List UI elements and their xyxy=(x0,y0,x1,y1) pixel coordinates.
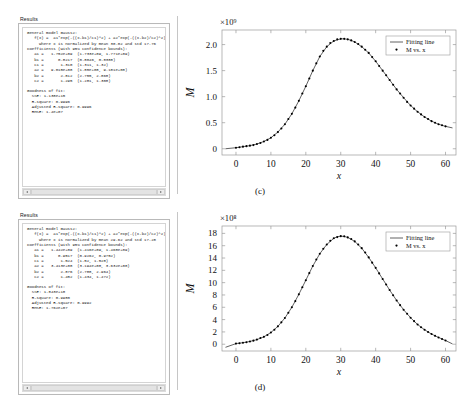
data-point xyxy=(242,146,244,148)
scroll-right-arrow-icon[interactable] xyxy=(157,189,165,195)
data-point xyxy=(389,289,391,291)
data-point xyxy=(444,125,446,127)
results-text-c: General model Gauss2: f(x) = a1*exp(-((x… xyxy=(27,31,162,116)
data-point xyxy=(350,238,352,240)
data-point xyxy=(368,52,370,54)
x-tick-label: 10 xyxy=(266,159,276,169)
data-point xyxy=(252,144,254,146)
x-tick-label: 60 xyxy=(441,355,451,365)
data-point xyxy=(333,237,335,239)
data-point xyxy=(273,134,275,136)
data-point xyxy=(434,122,436,124)
y-axis-multiplier: ×10⁹ xyxy=(220,17,236,27)
data-point xyxy=(389,79,391,81)
data-point xyxy=(245,341,247,343)
results-label-c: Results xyxy=(20,16,170,22)
data-point xyxy=(329,240,331,242)
data-point xyxy=(392,84,394,86)
data-point xyxy=(417,323,419,325)
results-panel-d-container: Results General model Gauss2: f(x) = a1*… xyxy=(18,212,170,395)
data-point xyxy=(424,116,426,118)
data-point xyxy=(437,336,439,338)
data-point xyxy=(336,236,338,238)
data-point xyxy=(294,300,296,302)
data-point xyxy=(396,88,398,90)
horizontal-scrollbar-c[interactable] xyxy=(22,188,166,196)
y-tick-label: 4 xyxy=(213,315,218,325)
data-point xyxy=(427,331,429,333)
data-point xyxy=(242,342,244,344)
data-point xyxy=(263,140,265,142)
data-point xyxy=(361,46,363,48)
data-point xyxy=(437,123,439,125)
results-panel-d: General model Gauss2: f(x) = a1*exp(-((x… xyxy=(18,219,170,395)
x-tick-label: 0 xyxy=(234,355,239,365)
x-tick-label: 20 xyxy=(301,355,311,365)
data-point xyxy=(441,338,443,340)
legend-label-fitting-line: Fitting line xyxy=(406,234,434,241)
chart-d-svg: ×10⁸0246810121416180102030405060xMFittin… xyxy=(180,208,465,386)
data-point xyxy=(249,145,251,147)
data-point xyxy=(343,235,345,237)
y-axis-label: M xyxy=(183,283,197,295)
data-point xyxy=(420,113,422,115)
data-point xyxy=(357,43,359,45)
y-tick-label: 2.0 xyxy=(206,40,218,50)
plot-c: ×10⁹00.51.01.52.00102030405060xMFitting … xyxy=(180,12,465,190)
data-point xyxy=(235,343,237,345)
data-point xyxy=(396,299,398,301)
results-line: RMSE: 1.762e+07 xyxy=(27,306,162,311)
data-point xyxy=(326,243,328,245)
x-tick-label: 10 xyxy=(266,355,276,365)
legend-label-data: M vs. x xyxy=(406,46,426,53)
data-point xyxy=(340,235,342,237)
data-point xyxy=(270,137,272,139)
fitting-line xyxy=(225,39,452,149)
y-tick-label: 10 xyxy=(208,278,218,288)
data-point xyxy=(287,312,289,314)
x-tick-label: 40 xyxy=(371,159,381,169)
data-point xyxy=(301,286,303,288)
scroll-right-arrow-icon[interactable] xyxy=(157,385,165,391)
data-point xyxy=(406,313,408,315)
results-text-d: General model Gauss2: f(x) = a1*exp(-((x… xyxy=(27,227,162,312)
scroll-left-arrow-icon[interactable] xyxy=(23,189,31,195)
y-tick-label: 0 xyxy=(213,144,218,154)
x-tick-label: 60 xyxy=(441,159,451,169)
figure-page: Results General model Gauss2: f(x) = a1*… xyxy=(0,0,465,418)
data-point xyxy=(301,92,303,94)
caption-c: (c) xyxy=(230,186,290,196)
y-tick-label: 6 xyxy=(213,302,218,312)
data-point xyxy=(294,107,296,109)
data-point xyxy=(336,38,338,40)
data-point xyxy=(354,240,356,242)
y-axis-multiplier: ×10⁸ xyxy=(220,213,236,223)
x-tick-label: 40 xyxy=(371,355,381,365)
data-point xyxy=(371,56,373,58)
legend-label-data: M vs. x xyxy=(406,242,426,249)
data-point xyxy=(315,62,317,64)
data-point xyxy=(270,331,272,333)
data-point xyxy=(441,124,443,126)
x-tick-label: 50 xyxy=(406,159,416,169)
data-point xyxy=(399,92,401,94)
data-point xyxy=(277,325,279,327)
data-point xyxy=(431,333,433,335)
y-tick-label: 0 xyxy=(213,339,218,349)
data-point xyxy=(427,118,429,120)
data-point xyxy=(406,101,408,103)
scrollbar-thumb[interactable] xyxy=(31,189,157,195)
data-point xyxy=(287,118,289,120)
results-text-area-c[interactable]: General model Gauss2: f(x) = a1*exp(-((x… xyxy=(22,27,166,187)
data-point xyxy=(319,56,321,58)
data-point xyxy=(252,340,254,342)
data-point xyxy=(403,97,405,99)
scrollbar-thumb[interactable] xyxy=(31,385,157,391)
results-line: f(x) = a1*exp(-((x-b1)/c1)^2) + a2*exp(-… xyxy=(27,36,162,41)
results-text-area-d[interactable]: General model Gauss2: f(x) = a1*exp(-((x… xyxy=(22,223,166,383)
horizontal-scrollbar-d[interactable] xyxy=(22,384,166,392)
data-point xyxy=(420,326,422,328)
scroll-left-arrow-icon[interactable] xyxy=(23,385,31,391)
data-point xyxy=(378,272,380,274)
data-point xyxy=(284,317,286,319)
